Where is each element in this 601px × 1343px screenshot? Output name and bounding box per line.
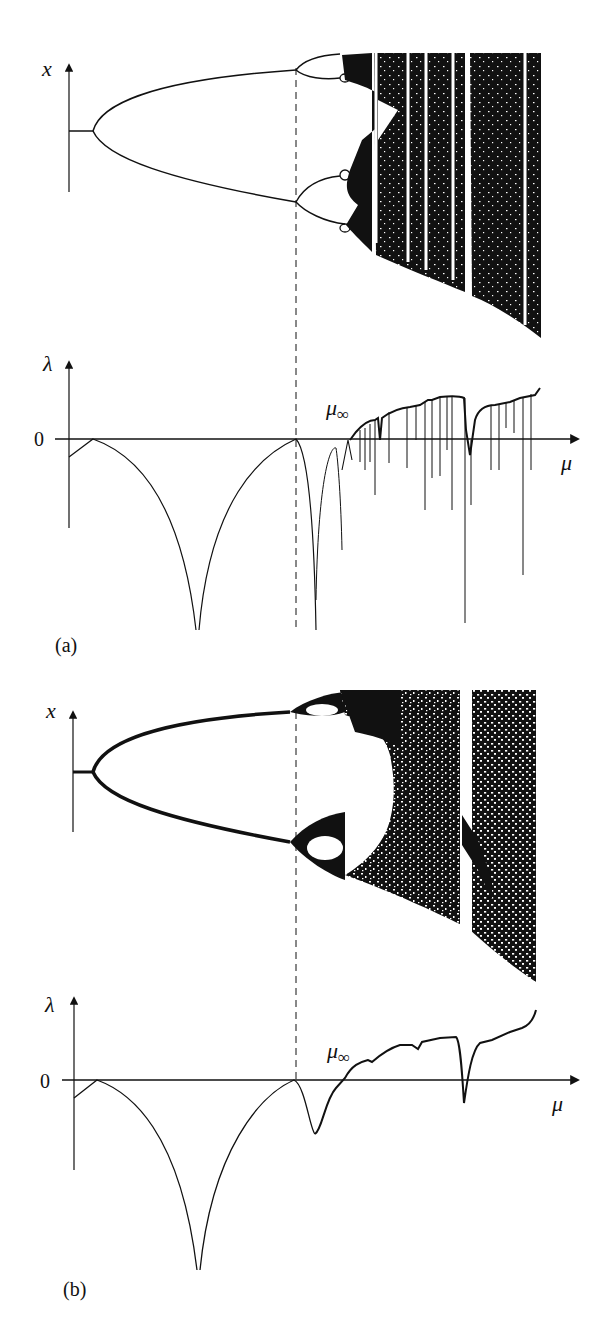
x-axis-label-a: x — [41, 56, 52, 81]
zero-tick-b: 0 — [40, 1070, 50, 1092]
panel-label-b: (b) — [63, 1278, 86, 1301]
lyapunov-plot-a — [55, 362, 578, 630]
figure-svg: x — [0, 0, 601, 1343]
panel-a: x — [34, 53, 578, 657]
lambda-axis-label-a: λ — [42, 351, 53, 376]
mu-axis-label-b: μ — [551, 1091, 563, 1116]
lyapunov-plot-b — [62, 998, 578, 1270]
bifurcation-plot-a — [69, 53, 541, 628]
zero-tick-a: 0 — [34, 428, 44, 450]
panel-label-a: (a) — [55, 634, 77, 657]
mu-axis-label-a: μ — [560, 450, 572, 475]
lambda-axis-label-b: λ — [44, 992, 55, 1017]
x-axis-label-b: x — [45, 698, 56, 723]
bifurcation-plot-b — [73, 690, 536, 1081]
mu-inf-annotation-a: μ∞ — [325, 395, 349, 424]
mu-inf-annotation-b: μ∞ — [326, 1038, 350, 1067]
lyapunov-spikes-a — [360, 394, 531, 623]
figure: x — [0, 0, 601, 1343]
panel-b: x λ 0 μ μ∞ (b) — [40, 690, 578, 1301]
